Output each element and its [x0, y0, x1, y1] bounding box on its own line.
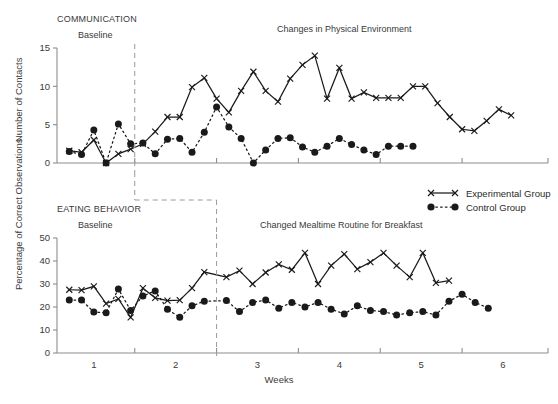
- data-point-circle: [397, 143, 404, 150]
- data-point-x: [201, 75, 207, 81]
- data-point-x: [91, 283, 97, 289]
- data-point-circle: [373, 151, 380, 158]
- data-point-circle: [139, 140, 146, 147]
- data-point-x: [407, 274, 413, 280]
- data-point-circle: [354, 302, 361, 309]
- bottom-series-group: [66, 250, 492, 321]
- data-point-x: [336, 65, 342, 71]
- data-point-circle: [445, 298, 452, 305]
- data-point-x: [263, 270, 269, 276]
- data-point-circle: [176, 314, 183, 321]
- data-point-circle: [485, 305, 492, 312]
- y-tick-label: 40: [39, 255, 50, 266]
- top-axes: 051015: [39, 42, 548, 168]
- panel-title-communication: COMMUNICATION: [57, 14, 137, 24]
- data-point-circle: [262, 297, 269, 304]
- legend: Experimental Group Control Group: [427, 188, 550, 213]
- panel-eating-behavior: EATING BEHAVIOR Baseline Changed Mealtim…: [13, 138, 548, 385]
- data-point-circle: [103, 309, 110, 316]
- data-point-x: [250, 69, 256, 75]
- data-point-x: [315, 281, 321, 287]
- data-point-circle: [66, 297, 73, 304]
- data-point-circle: [115, 286, 122, 293]
- data-point-circle: [348, 141, 355, 148]
- y-tick-label: 30: [39, 278, 50, 289]
- y-tick-label: 0: [45, 347, 50, 358]
- data-point-circle: [288, 299, 295, 306]
- data-point-circle: [164, 136, 171, 143]
- data-point-x: [289, 267, 295, 273]
- phase-label-top-baseline: Baseline: [78, 30, 113, 40]
- phase-change-dashed-lines: [135, 44, 217, 358]
- data-point-circle: [236, 308, 243, 315]
- data-point-circle: [189, 149, 196, 156]
- x-tick-label: 3: [255, 359, 260, 370]
- data-point-circle: [299, 143, 306, 150]
- data-point-x: [435, 100, 441, 106]
- data-point-x: [226, 109, 232, 115]
- data-point-circle: [78, 297, 85, 304]
- data-point-x: [394, 263, 400, 269]
- x-tick-label: 5: [419, 359, 424, 370]
- data-point-circle: [152, 287, 159, 294]
- y-tick-label: 5: [45, 119, 50, 130]
- data-point-circle: [139, 292, 146, 299]
- data-point-circle: [66, 148, 73, 155]
- data-point-x: [328, 263, 334, 269]
- data-point-x: [103, 301, 109, 307]
- data-point-x: [238, 88, 244, 94]
- data-point-x: [420, 250, 426, 256]
- data-point-circle: [223, 297, 230, 304]
- data-point-circle: [367, 307, 374, 314]
- data-point-circle: [328, 306, 335, 313]
- data-point-circle: [164, 306, 171, 313]
- data-point-circle: [201, 298, 208, 305]
- data-point-x: [484, 118, 490, 124]
- data-point-x: [91, 137, 97, 143]
- y-tick-label: 50: [39, 232, 50, 243]
- y-axis-title-top: Number of Contacts: [13, 57, 24, 142]
- data-point-circle: [336, 135, 343, 142]
- data-point-x: [354, 266, 360, 272]
- data-point-x: [367, 259, 373, 265]
- data-point-x: [128, 314, 134, 320]
- data-point-circle: [341, 310, 348, 317]
- data-point-circle: [287, 134, 294, 141]
- legend-label-control: Control Group: [466, 202, 526, 213]
- data-point-circle: [176, 135, 183, 142]
- y-axis-title-bottom: Percentage of Correct Observations: [13, 138, 24, 290]
- data-point-x: [115, 296, 121, 302]
- data-point-circle: [409, 143, 416, 150]
- data-point-circle: [311, 149, 318, 156]
- x-tick-label: 6: [500, 359, 505, 370]
- data-point-x: [287, 76, 293, 82]
- data-point-circle: [360, 146, 367, 153]
- data-point-circle: [315, 299, 322, 306]
- data-point-circle: [213, 104, 220, 111]
- data-point-circle: [90, 309, 97, 316]
- two-panel-line-chart: COMMUNICATION Baseline Changes in Physic…: [0, 0, 558, 404]
- y-tick-label: 10: [39, 324, 50, 335]
- data-point-circle: [459, 291, 466, 298]
- figure-root: COMMUNICATION Baseline Changes in Physic…: [0, 0, 558, 404]
- data-point-circle: [115, 120, 122, 127]
- phase-label-bottom-baseline: Baseline: [78, 220, 113, 230]
- phase-label-top-intervention: Changes in Physical Environment: [277, 24, 412, 34]
- data-point-circle: [225, 123, 232, 130]
- experimental-line: [69, 253, 449, 317]
- data-point-circle: [103, 160, 110, 167]
- phase-label-bottom-intervention: Changed Mealtime Routine for Breakfast: [260, 220, 423, 230]
- data-point-x: [189, 285, 195, 291]
- data-point-circle: [189, 302, 196, 309]
- y-tick-label: 0: [45, 157, 50, 168]
- x-tick-label: 2: [173, 359, 178, 370]
- legend-label-experimental: Experimental Group: [466, 188, 550, 199]
- data-point-x: [361, 89, 367, 95]
- panel-communication: COMMUNICATION Baseline Changes in Physic…: [13, 14, 548, 168]
- data-point-circle: [324, 143, 331, 150]
- data-point-circle: [250, 160, 257, 167]
- data-point-x: [275, 99, 281, 105]
- data-point-circle: [201, 129, 208, 136]
- data-point-circle: [472, 299, 479, 306]
- data-point-x: [276, 261, 282, 267]
